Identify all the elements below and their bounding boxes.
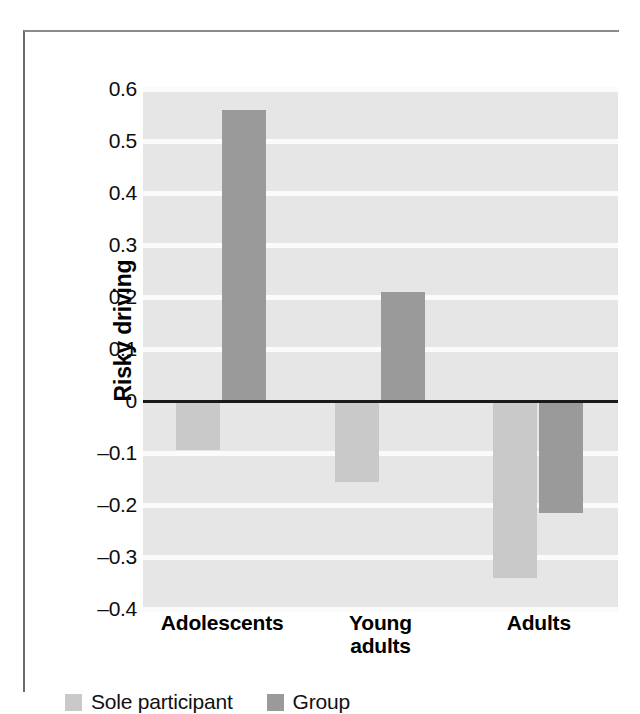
y-tick-label: –0.3 — [27, 545, 137, 569]
gridline — [143, 243, 618, 248]
y-tick-label: –0.4 — [27, 597, 137, 621]
y-tick-label: 0.1 — [27, 337, 137, 361]
gridline — [143, 555, 618, 560]
legend-item-group: Group — [267, 690, 350, 714]
gridline — [143, 191, 618, 196]
legend-label: Sole participant — [91, 690, 233, 714]
y-tick-label: 0.5 — [27, 129, 137, 153]
x-label-line: Adolescents — [132, 612, 312, 635]
bar-sole-participant-adults — [493, 401, 537, 578]
y-tick-label: 0.6 — [27, 77, 137, 101]
legend-swatch-icon — [267, 694, 284, 711]
bar-group-adolescents — [222, 110, 266, 401]
y-axis-tick-labels: 0.60.50.40.30.20.10–0.1–0.2–0.3–0.4 — [25, 89, 137, 609]
legend-label: Group — [293, 690, 350, 714]
bar-sole-participant-young-adults — [335, 401, 379, 482]
x-label-line: Adults — [449, 612, 629, 635]
y-tick-label: 0.4 — [27, 181, 137, 205]
x-axis-label-adults: Adults — [449, 612, 629, 635]
y-tick-label: 0.2 — [27, 285, 137, 309]
x-label-line: Young — [291, 612, 471, 635]
legend-swatch-icon — [65, 694, 82, 711]
x-axis-label-adolescents: Adolescents — [132, 612, 312, 635]
x-label-line: adults — [291, 635, 471, 658]
y-tick-label: –0.1 — [27, 441, 137, 465]
gridline — [143, 139, 618, 144]
chart-legend: Sole participantGroup — [65, 690, 350, 714]
bar-group-adults — [539, 401, 583, 513]
x-axis-label-young: Youngadults — [291, 612, 471, 657]
y-tick-label: 0 — [27, 389, 137, 413]
bar-group-young-adults — [381, 292, 425, 401]
y-tick-label: 0.3 — [27, 233, 137, 257]
figure-frame: Risky driving 0.60.50.40.30.20.10–0.1–0.… — [23, 30, 619, 692]
bar-sole-participant-adolescents — [176, 401, 220, 450]
x-axis-category-labels: AdolescentsYoungadultsAdults — [143, 612, 618, 682]
zero-baseline — [143, 400, 618, 403]
plot-area — [143, 89, 618, 609]
y-tick-label: –0.2 — [27, 493, 137, 517]
gridline — [143, 87, 618, 92]
legend-item-sole-participant: Sole participant — [65, 690, 233, 714]
